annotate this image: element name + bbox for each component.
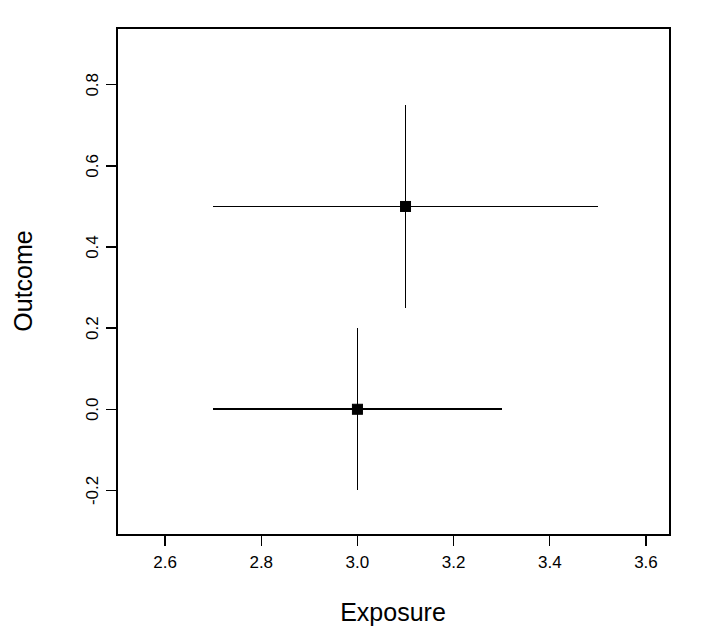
x-tick-label: 3.2 xyxy=(442,553,466,572)
data-point-point-lower xyxy=(213,328,502,490)
data-point-point-upper xyxy=(213,105,598,308)
x-axis-title: Exposure xyxy=(340,598,446,626)
x-tick-label: 2.8 xyxy=(249,553,273,572)
y-axis-title: Outcome xyxy=(9,230,37,331)
x-tick-label: 2.6 xyxy=(153,553,177,572)
x-tick-label: 3.4 xyxy=(538,553,562,572)
point-marker xyxy=(401,201,411,211)
y-tick-label: 0.2 xyxy=(84,316,103,340)
y-tick-label: 0.0 xyxy=(84,397,103,421)
y-tick-label: 0.4 xyxy=(84,235,103,259)
x-axis-ticks: 2.62.83.03.23.43.6 xyxy=(153,535,658,572)
point-marker xyxy=(352,404,362,414)
plot-frame-box xyxy=(117,28,670,535)
y-tick-label: -0.2 xyxy=(84,476,103,505)
x-tick-label: 3.0 xyxy=(346,553,370,572)
y-tick-label: 0.8 xyxy=(84,73,103,97)
chart-figure: 2.62.83.03.23.43.6 -0.20.00.20.40.60.8 E… xyxy=(0,0,704,642)
y-tick-label: 0.6 xyxy=(84,154,103,178)
y-axis-ticks: -0.20.00.20.40.60.8 xyxy=(84,73,118,505)
data-series xyxy=(213,105,598,490)
x-tick-label: 3.6 xyxy=(634,553,658,572)
scatter-plot-canvas: 2.62.83.03.23.43.6 -0.20.00.20.40.60.8 E… xyxy=(0,0,704,642)
